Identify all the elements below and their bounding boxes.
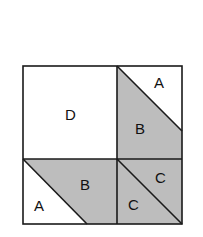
quilt-block-diagram: D A B B A C C bbox=[0, 0, 203, 237]
label-b-bottom-left: B bbox=[80, 176, 90, 193]
label-c-upper: C bbox=[155, 169, 166, 186]
label-c-lower: C bbox=[128, 196, 139, 213]
label-b-top-right: B bbox=[135, 120, 145, 137]
region-b-bottom-left bbox=[23, 159, 117, 224]
label-a-top-right: A bbox=[154, 74, 164, 91]
region-b-top-right bbox=[117, 66, 182, 159]
label-a-bottom-left: A bbox=[34, 197, 44, 214]
label-d: D bbox=[65, 106, 76, 123]
